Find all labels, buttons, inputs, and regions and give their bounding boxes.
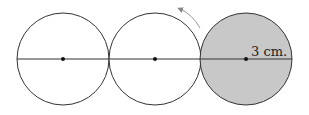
center-dot-middle <box>153 57 157 61</box>
center-dot-shaded <box>244 57 248 61</box>
rolling-circles-diagram: 3 cm. <box>0 0 309 115</box>
center-dot-left <box>61 57 65 61</box>
radius-label: 3 cm. <box>251 44 287 59</box>
